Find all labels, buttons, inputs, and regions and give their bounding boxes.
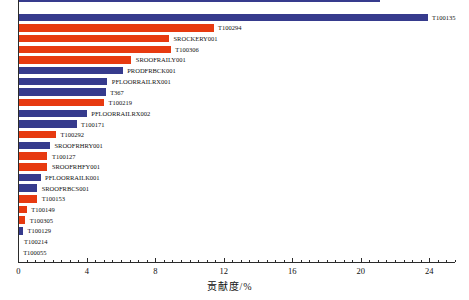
x-axis-tick-label: 16 [288, 267, 297, 276]
bar-label: T100219 [108, 100, 131, 107]
bar-T100292 [18, 131, 56, 139]
y-axis-line [18, 0, 19, 262]
bar-label: T100127 [52, 153, 75, 160]
bar-label: T100292 [60, 132, 83, 139]
x-axis-tick-label: 12 [220, 267, 229, 276]
bar-label: SROOFRAILY001 [136, 57, 186, 64]
bar-label: T100171 [81, 121, 104, 128]
x-axis-tick-label: 4 [85, 267, 89, 276]
bar-SROOFRAILY001 [18, 56, 131, 64]
bar-PFLOORRAILRX002 [18, 110, 87, 118]
bar-label: SROOFRBCS001 [42, 185, 89, 192]
bar-label: T100129 [27, 228, 50, 235]
bar-label: SROOFRHFY001 [52, 164, 100, 171]
bar-label: T100153 [42, 196, 65, 203]
bar-label: T100055 [23, 249, 46, 256]
bar-SROCKERY001 [18, 35, 169, 43]
bar-label: PFLOORRAILK001 [45, 175, 100, 182]
bar-T100219 [18, 99, 104, 107]
bar-T367 [18, 88, 105, 96]
x-axis-line [18, 262, 455, 263]
clipped-top-bar [18, 0, 379, 2]
bar-label: PRODFRBCK001 [127, 68, 175, 75]
bar-SROOFRHFY001 [18, 163, 47, 171]
bar-label: T100135 [432, 15, 455, 22]
x-axis-title: 贡献度/% [207, 282, 253, 292]
bar-T100294 [18, 24, 213, 32]
bar-T100305 [18, 216, 25, 224]
plot-area: T100135T100294SROCKERY001T100306SROOFRAI… [0, 0, 469, 300]
bar-PFLOORRAILK001 [18, 174, 40, 182]
x-axis-minor-tick [455, 260, 456, 263]
bar-label: T100149 [31, 207, 54, 214]
bar-PFLOORRAILRX001 [18, 78, 107, 86]
bar-T100135 [18, 14, 427, 22]
bar-label: T367 [110, 89, 124, 96]
bar-label: T100306 [175, 47, 198, 54]
bar-T100171 [18, 120, 76, 128]
x-axis-tick-label: 24 [425, 267, 434, 276]
bar-chart-figure: T100135T100294SROCKERY001T100306SROOFRAI… [0, 0, 469, 300]
bar-SROOFRHRY001 [18, 142, 50, 150]
bar-T100127 [18, 152, 47, 160]
x-axis-tick-label: 0 [16, 267, 20, 276]
x-axis-tick-label: 20 [357, 267, 366, 276]
bar-label: PFLOORRAILRX001 [112, 79, 171, 86]
bar-label: T100214 [24, 239, 47, 246]
bar-T100306 [18, 46, 170, 54]
bar-label: T100305 [30, 217, 53, 224]
bar-label: PFLOORRAILRX002 [91, 111, 150, 118]
bar-T100153 [18, 195, 37, 203]
bar-T100149 [18, 206, 27, 214]
bar-label: SROOFRHRY001 [54, 143, 102, 150]
x-axis-tick-label: 8 [153, 267, 157, 276]
bar-label: T100294 [218, 25, 241, 32]
bar-label: SROCKERY001 [174, 36, 218, 43]
bar-SROOFRBCS001 [18, 184, 37, 192]
bar-PRODFRBCK001 [18, 67, 122, 75]
